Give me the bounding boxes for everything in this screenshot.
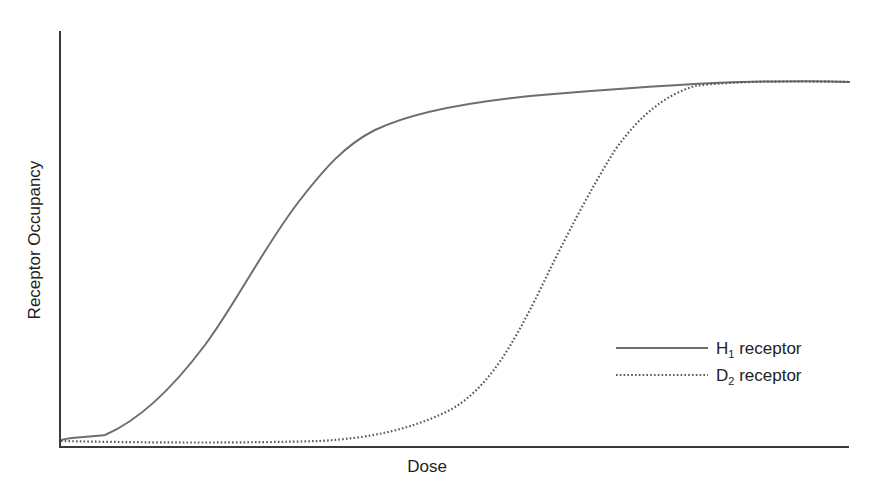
chart-canvas: Receptor Occupancy Dose H1 receptor D2 r… (0, 0, 869, 500)
legend-h1-label: H1 receptor (716, 339, 802, 360)
legend-d2-label: D2 receptor (716, 366, 802, 387)
y-axis-label: Receptor Occupancy (25, 160, 44, 319)
d2-curve (61, 81, 850, 442)
legend: H1 receptor D2 receptor (616, 339, 802, 387)
x-axis-label: Dose (407, 457, 447, 476)
